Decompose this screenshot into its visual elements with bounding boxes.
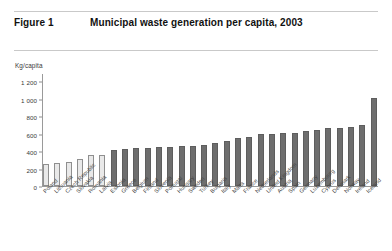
y-axis-tick-1200: 1 200 bbox=[21, 79, 37, 86]
bar-spain bbox=[292, 133, 298, 186]
figure-number-label: Figure 1 bbox=[14, 17, 90, 29]
bar-netherlands bbox=[258, 134, 264, 186]
y-axis-tick-0: 0 bbox=[33, 184, 37, 191]
figure-title: Municipal waste generation per capita, 2… bbox=[90, 17, 378, 30]
y-axis-tick-600: 600 bbox=[26, 131, 37, 138]
x-axis-category-labels: PolandLithuaniaCzech RepublicSlovakiaRom… bbox=[42, 190, 382, 250]
y-axis-tick-labels: 02004006008001 0001 200 bbox=[14, 74, 42, 194]
bar-iceland bbox=[371, 98, 377, 186]
figure-header: Figure 1 Municipal waste generation per … bbox=[14, 11, 378, 51]
y-axis-tick-1000: 1 000 bbox=[21, 96, 37, 103]
bar-malta bbox=[235, 138, 241, 186]
y-axis-tick-200: 200 bbox=[26, 166, 37, 173]
y-axis-tick-400: 400 bbox=[26, 149, 37, 156]
figure-card: Figure 1 Municipal waste generation per … bbox=[0, 0, 392, 251]
bar-ireland bbox=[359, 125, 365, 186]
y-axis-tick-800: 800 bbox=[26, 114, 37, 121]
y-axis-unit-label: Kg/capita bbox=[15, 62, 43, 69]
bar-estonia bbox=[111, 150, 117, 186]
bar-germany bbox=[303, 131, 309, 186]
